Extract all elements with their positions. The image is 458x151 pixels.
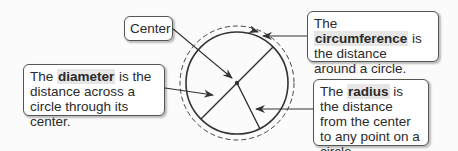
radius-term: radius: [347, 84, 390, 99]
diameter-label: The diameter is the distance across a ci…: [23, 64, 165, 116]
radius-line: [237, 83, 260, 129]
center-arrow: [172, 28, 232, 78]
center-label: Center: [124, 16, 173, 41]
center-point: [235, 81, 239, 85]
diameter-term: diameter: [57, 69, 115, 84]
circumference-label: The circumference is the distance around…: [307, 11, 439, 62]
diameter-arrow: [165, 88, 213, 95]
circumference-term: circumference: [314, 31, 408, 46]
radius-label: The radius is the distance from the cent…: [313, 79, 429, 146]
